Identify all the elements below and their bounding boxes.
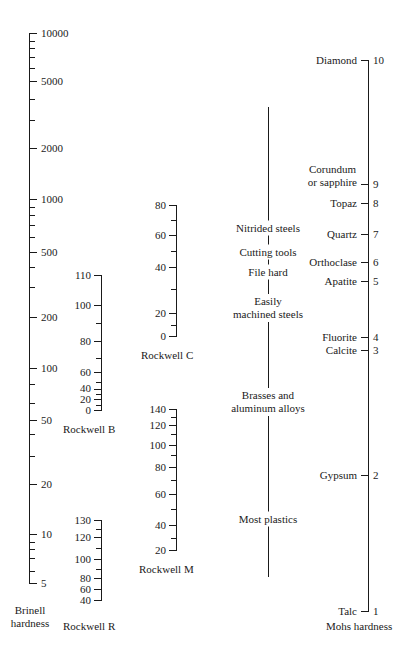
brinell-tick — [29, 317, 37, 318]
brinell-minor-tick — [29, 267, 35, 268]
brinell-tick-label: 100 — [41, 362, 58, 374]
rm-tick-label: 80 — [155, 461, 166, 473]
mohs-value: 7 — [373, 228, 379, 240]
mohs-value: 5 — [373, 275, 379, 287]
material-brasses-aluminum: Brasses and aluminum alloys — [231, 388, 305, 416]
rb-minor-tick — [96, 405, 102, 406]
mohs-value: 3 — [373, 344, 379, 356]
mohs-axis — [368, 60, 369, 612]
material-easily-machined-steels: Easily machined steels — [233, 294, 303, 322]
material-label-line: Brasses and — [231, 389, 305, 402]
brinell-tick-label: 5000 — [41, 75, 63, 87]
rb-tick-label: 0 — [86, 404, 92, 416]
rc-minor-tick — [171, 251, 177, 252]
mineral-talc: Talc — [338, 605, 357, 617]
mineral-gypsum: Gypsum — [320, 469, 357, 481]
brinell-minor-tick — [29, 68, 35, 69]
material-most-plastics: Most plastics — [239, 512, 297, 527]
mineral-fluorite: Fluorite — [322, 331, 357, 343]
brinell-tick-label: 5 — [41, 577, 47, 589]
rr-tick-label: 40 — [80, 594, 91, 606]
mohs-tick — [361, 262, 369, 263]
mohs-value: 9 — [373, 178, 379, 190]
mohs-value: 2 — [373, 469, 379, 481]
rc-minor-tick — [171, 289, 177, 290]
mohs-value: 8 — [373, 197, 379, 209]
rr-minor-tick — [96, 548, 102, 549]
rc-tick — [169, 205, 177, 206]
brinell-minor-tick — [29, 434, 35, 435]
brinell-title-line2: hardness — [8, 617, 52, 630]
rm-tick-label: 120 — [150, 419, 167, 431]
rr-tick — [94, 559, 102, 560]
brinell-tick-label: 2000 — [41, 142, 63, 154]
rb-tick-label: 60 — [80, 366, 91, 378]
brinell-minor-tick — [29, 542, 35, 543]
rr-tick — [94, 589, 102, 590]
rr-tick-label: 120 — [75, 531, 92, 543]
mineral-label-line: Corundum — [308, 163, 357, 176]
brinell-minor-tick — [29, 120, 35, 121]
mineral-calcite: Calcite — [326, 344, 357, 356]
rc-minor-tick — [171, 325, 177, 326]
rm-tick — [169, 494, 177, 495]
rb-minor-tick — [96, 358, 102, 359]
brinell-minor-tick — [29, 41, 35, 42]
rm-tick — [169, 409, 177, 410]
rm-tick — [169, 525, 177, 526]
mineral-orthoclase: Orthoclase — [309, 256, 357, 268]
rb-tick-label: 110 — [75, 269, 91, 281]
brinell-tick-label: 10 — [41, 528, 52, 540]
brinell-minor-tick — [29, 48, 35, 49]
rm-minor-tick — [171, 480, 177, 481]
rc-tick — [169, 336, 177, 337]
rb-minor-tick — [96, 394, 102, 395]
brinell-minor-tick — [29, 99, 35, 100]
mohs-value: 10 — [373, 54, 384, 66]
brinell-title: Brinell hardness — [8, 604, 52, 630]
rb-tick-label: 80 — [80, 335, 91, 347]
brinell-tick — [29, 583, 37, 584]
brinell-minor-tick — [29, 456, 35, 457]
material-label-line: Easily — [233, 295, 303, 308]
material-label-line: aluminum alloys — [231, 402, 305, 415]
mohs-value: 6 — [373, 256, 379, 268]
mineral-topaz: Topaz — [330, 197, 357, 209]
mohs-tick — [361, 60, 369, 61]
mohs-tick — [361, 337, 369, 338]
rc-minor-tick — [171, 220, 177, 221]
material-nitrided-steels: Nitrided steels — [236, 221, 300, 236]
rb-tick — [94, 389, 102, 390]
materials-line — [268, 107, 269, 577]
rm-tick-label: 20 — [155, 544, 166, 556]
rb-minor-tick — [96, 323, 102, 324]
brinell-axis — [29, 33, 30, 584]
rc-tick-label: 20 — [155, 307, 166, 319]
brinell-tick-label: 50 — [41, 414, 52, 426]
brinell-minor-tick — [29, 571, 35, 572]
rr-tick-label: 100 — [75, 553, 92, 565]
rc-tick-label: 40 — [155, 261, 166, 273]
brinell-tick-label: 200 — [41, 311, 58, 323]
brinell-minor-tick — [29, 287, 35, 288]
rm-tick-label: 100 — [150, 439, 167, 451]
rb-tick — [94, 372, 102, 373]
rr-tick — [94, 537, 102, 538]
rb-tick — [94, 341, 102, 342]
brinell-minor-tick — [29, 215, 35, 216]
brinell-minor-tick — [29, 403, 35, 404]
mineral-corundum: Corundum or sapphire — [308, 163, 357, 189]
mohs-tick — [361, 203, 369, 204]
rb-tick — [94, 399, 102, 400]
mohs-tick — [361, 475, 369, 476]
brinell-minor-tick — [29, 57, 35, 58]
rockwell-b-axis — [101, 275, 102, 411]
rr-tick — [94, 600, 102, 601]
rc-tick-label: 60 — [155, 229, 166, 241]
rb-minor-tick — [96, 382, 102, 383]
rr-tick — [94, 520, 102, 521]
rm-tick — [169, 467, 177, 468]
brinell-tick — [29, 148, 37, 149]
material-cutting-tools: Cutting tools — [239, 245, 296, 260]
mohs-title: Mohs hardness — [326, 620, 392, 633]
